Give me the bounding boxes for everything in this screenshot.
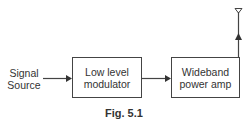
block-low-level-modulator: Low level modulator <box>72 57 142 98</box>
block-label-line1: Low level <box>85 66 129 78</box>
signal-source-label: Signal Source <box>4 67 44 91</box>
block-wideband-power-amp: Wideband power amp <box>171 57 240 98</box>
block-label-line1: Wideband <box>182 66 229 78</box>
block-label-line2: power amp <box>180 78 232 90</box>
signal-source-line1: Signal <box>4 67 44 79</box>
antenna-icon <box>235 9 242 14</box>
figure-caption: Fig. 5.1 <box>105 107 143 119</box>
arrowhead-up-icon <box>235 33 242 40</box>
signal-source-line2: Source <box>4 79 44 91</box>
block-label-line2: modulator <box>84 78 131 90</box>
